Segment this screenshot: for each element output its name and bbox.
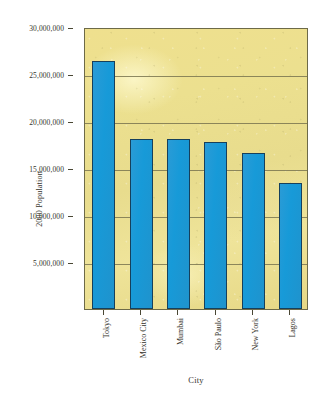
x-axis-tick-mark [140,310,141,315]
y-axis-tick-mark [68,263,73,264]
y-axis-tick-mark [68,75,73,76]
x-axis-tick-label: Tokyo [101,318,110,338]
x-axis-tick-label: New York [251,318,260,350]
x-axis-tick-mark [103,310,104,315]
x-axis-tick-labels: TokyoMexico CityMumbaiSão PauloNew YorkL… [84,318,308,378]
x-axis-tick-mark [215,310,216,315]
x-axis-tick-label: Mexico City [139,318,148,358]
x-axis-tick-label: São Paulo [213,318,222,350]
y-axis-tick-label: 30,000,000 [29,24,64,33]
y-axis-tick-mark [68,169,73,170]
x-axis-tick-mark [252,310,253,315]
bar [279,183,302,309]
y-axis-tick-labels: 5,000,00010,000,00015,000,00020,000,0002… [0,28,73,310]
bar [242,153,265,309]
bar [92,61,115,309]
y-axis-tick-mark [68,216,73,217]
bar [204,142,227,309]
x-axis-tick-label: Mumbai [176,318,185,345]
x-axis-tick-mark [177,310,178,315]
bar-chart-figure: 5,000,00010,000,00015,000,00020,000,0002… [0,0,323,398]
x-axis-tick-label: Lagos [288,318,297,338]
y-axis-title: 2000 Population [35,171,44,227]
y-axis-tick-label: 5,000,000 [33,259,64,268]
y-axis-tick-mark [68,122,73,123]
plot-area [84,28,308,310]
x-axis-title: City [84,375,308,385]
bar-series [85,29,307,309]
x-axis-tick-mark [289,310,290,315]
y-axis-tick-mark [68,28,73,29]
y-axis-tick-label: 20,000,000 [29,118,64,127]
bar [130,139,153,309]
y-axis-tick-label: 25,000,000 [29,71,64,80]
x-axis-tick-marks [84,310,308,316]
bar [167,139,190,309]
